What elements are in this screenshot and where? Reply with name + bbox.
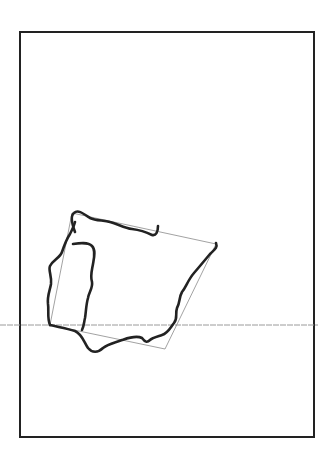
east-south-coast bbox=[50, 243, 217, 352]
iberia-outline bbox=[48, 212, 217, 352]
frame-border bbox=[20, 32, 314, 437]
diagram-canvas bbox=[0, 0, 330, 469]
west-coast bbox=[48, 222, 75, 325]
guide-square bbox=[50, 213, 216, 349]
north-coast bbox=[72, 212, 158, 236]
portugal-border bbox=[73, 243, 94, 330]
